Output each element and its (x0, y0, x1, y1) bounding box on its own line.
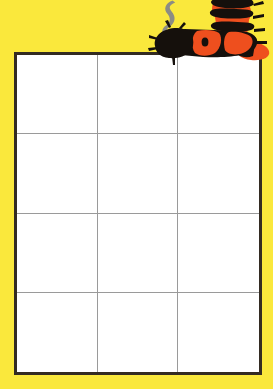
grid-cell-r4c3[interactable] (178, 293, 259, 372)
grid-cell-r3c1[interactable] (17, 214, 98, 293)
grid-cell-r2c3[interactable] (178, 134, 259, 213)
grid-cell-r2c2[interactable] (98, 134, 179, 213)
worksheet-page (0, 0, 273, 389)
smoke-wisp-icon (150, 0, 190, 41)
grid-cell-r4c2[interactable] (98, 293, 179, 372)
grid-cell-r1c2[interactable] (98, 55, 179, 134)
grid-cell-r3c2[interactable] (98, 214, 179, 293)
grid-cell-r1c3[interactable] (178, 55, 259, 134)
grid-cell-r4c1[interactable] (17, 293, 98, 372)
grid-cell-r1c1[interactable] (17, 55, 98, 134)
worksheet-grid (14, 52, 262, 375)
grid-cell-r2c1[interactable] (17, 134, 98, 213)
grid-cell-r3c3[interactable] (178, 214, 259, 293)
